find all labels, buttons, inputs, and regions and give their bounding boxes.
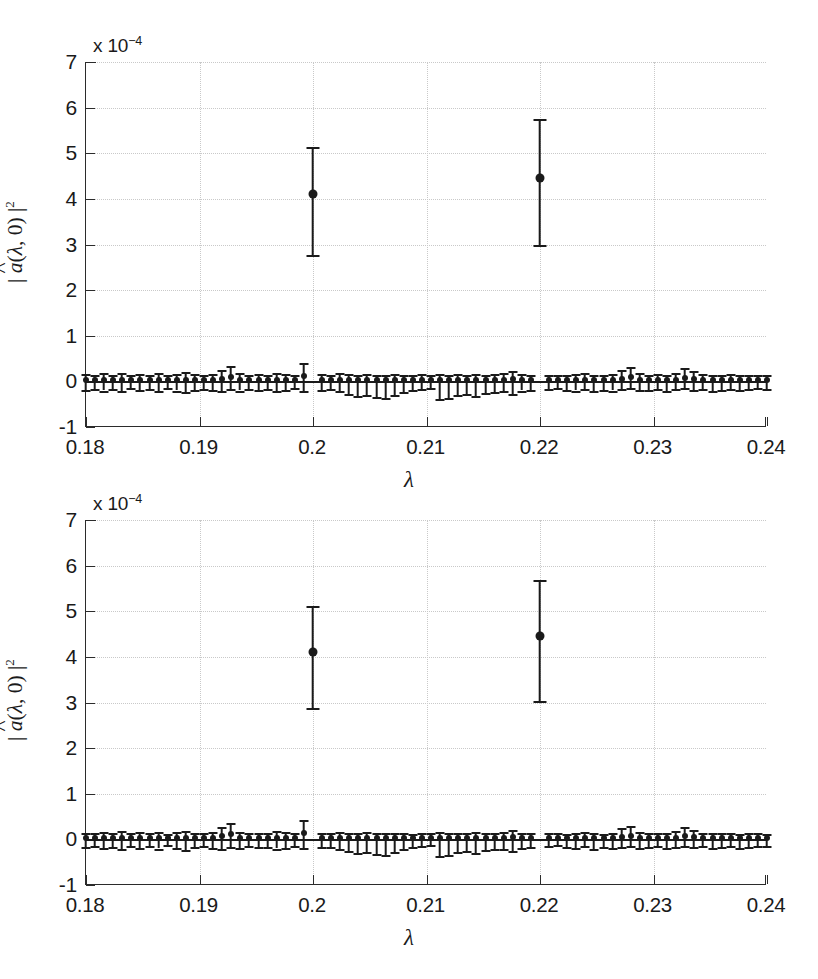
x-tick (427, 417, 428, 426)
y-axis-exponent-label: x 10−4 (93, 34, 142, 57)
axis-right-cap (765, 417, 766, 426)
y-tick (86, 245, 95, 246)
x-tick (86, 875, 87, 884)
y-axis-title: | a(λ, 0) |2 (2, 162, 28, 322)
gridline-vertical (654, 62, 655, 426)
x-tick-label: 0.19 (179, 435, 218, 459)
x-tick (200, 875, 201, 884)
gridline-vertical (313, 62, 314, 426)
x-tick (654, 417, 655, 426)
y-tick-label: 7 (7, 508, 77, 532)
gridline-vertical (540, 520, 541, 884)
x-axis-title: λ (0, 925, 818, 951)
plot-area-1 (85, 520, 766, 885)
errorbar-line (766, 375, 768, 388)
chart-panel-top: x 10−4-1012345670.180.190.20.210.220.230… (0, 0, 818, 490)
x-tick (654, 875, 655, 884)
y-tick (86, 611, 95, 612)
y-tick-label: 7 (7, 50, 77, 74)
x-tick-label: 0.2 (298, 435, 326, 459)
axis-right-cap (765, 875, 766, 884)
gridline-vertical (427, 520, 428, 884)
plot-area-0 (85, 62, 766, 427)
x-tick (540, 875, 541, 884)
y-tick (86, 199, 95, 200)
chart-panel-bottom: x 10−4-1012345670.180.190.20.210.220.230… (0, 458, 818, 979)
y-tick (86, 566, 95, 567)
zero-baseline (86, 839, 766, 841)
errorbar-line (766, 834, 768, 846)
x-tick-label: 0.18 (66, 435, 105, 459)
zero-baseline (86, 381, 766, 383)
y-tick (86, 885, 95, 886)
y-tick (86, 62, 95, 63)
y-tick (86, 520, 95, 521)
x-tick-label: 0.21 (406, 893, 445, 917)
y-tick (86, 153, 95, 154)
y-tick (86, 748, 95, 749)
x-tick-label: 0.23 (633, 435, 672, 459)
y-tick-label: 1 (7, 324, 77, 348)
x-tick (767, 417, 768, 426)
gridline-vertical (654, 520, 655, 884)
x-tick-label: 0.22 (520, 893, 559, 917)
x-tick (767, 875, 768, 884)
x-tick (86, 417, 87, 426)
gridlines-1 (86, 520, 766, 884)
y-axis-exponent-label: x 10−4 (93, 492, 142, 515)
y-tick-label: 0 (7, 827, 77, 851)
x-tick (200, 417, 201, 426)
figure-errorbar-spectrum: x 10−4-1012345670.180.190.20.210.220.230… (0, 0, 818, 979)
gridline-vertical (200, 62, 201, 426)
y-tick-label: 6 (7, 96, 77, 120)
gridlines-0 (86, 62, 766, 426)
x-tick (313, 417, 314, 426)
y-tick-label: 0 (7, 369, 77, 393)
x-tick-label: 0.18 (66, 893, 105, 917)
x-tick-label: 0.22 (520, 435, 559, 459)
y-tick (86, 427, 95, 428)
y-tick (86, 108, 95, 109)
gridline-vertical (200, 520, 201, 884)
x-tick-label: 0.24 (747, 435, 786, 459)
y-tick (86, 703, 95, 704)
gridline-vertical (427, 62, 428, 426)
y-tick-label: 1 (7, 782, 77, 806)
x-tick (427, 875, 428, 884)
x-tick-label: 0.24 (747, 893, 786, 917)
x-tick (540, 417, 541, 426)
x-tick-label: 0.21 (406, 435, 445, 459)
y-tick (86, 336, 95, 337)
x-tick (313, 875, 314, 884)
y-axis-title: | a(λ, 0) |2 (2, 620, 28, 780)
x-tick-label: 0.19 (179, 893, 218, 917)
y-tick (86, 794, 95, 795)
y-tick (86, 657, 95, 658)
x-tick-label: 0.2 (298, 893, 326, 917)
x-tick-label: 0.23 (633, 893, 672, 917)
gridline-vertical (540, 62, 541, 426)
gridline-vertical (313, 520, 314, 884)
y-tick-label: 6 (7, 554, 77, 578)
y-tick (86, 290, 95, 291)
